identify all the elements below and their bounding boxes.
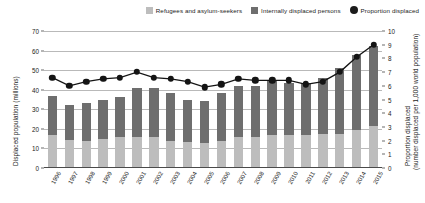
y-axis-right-title-line1: Proportion displaced [404,106,411,166]
y-axis-left-tick-label: 0 [35,165,39,172]
y-axis-left-tick-label: 70 [32,28,39,35]
legend-dot-proportion-icon [350,6,358,14]
x-axis-tick-label: 2012 [317,170,333,191]
y-axis-right-tick-label: 10 [388,28,395,35]
x-axis-tick-label: 2013 [334,170,350,191]
x-axis-tick-label: 2006 [215,170,231,191]
y-axis-right-tick-label: 1 [388,151,392,158]
x-axis-tick-label: 2007 [232,170,248,191]
x-axis-tick-label: 2009 [266,170,282,191]
plot-area: 010203040506070 012345678910 [44,31,382,168]
y-axis-left-tick-label: 10 [32,145,39,152]
y-axis-right-tickmark [382,99,385,100]
y-axis-right-tickmark [382,140,385,141]
x-axis-baseline [44,167,382,168]
y-axis-left-tick-label: 20 [32,125,39,132]
y-axis-right-tickmark [382,168,385,169]
x-axis-tick-label: 2004 [182,170,198,191]
x-axis-tick-label: 2003 [165,170,181,191]
y-axis-right-tick-label: 2 [388,137,392,144]
legend-item-refugees: Refugees and asylum-seekers [146,7,242,14]
x-axis-tick-label: 1996 [46,170,62,191]
legend-label-proportion: Proportion displaced [361,7,419,14]
x-axis-tick-label: 2000 [114,170,130,191]
x-axis-tick-label: 2015 [368,170,384,191]
x-axis-tick-label: 1998 [80,170,96,191]
y-axis-right-tick-label: 6 [388,82,392,89]
x-axis-tick-label: 2002 [148,170,164,191]
y-axis-right-tickmark [382,31,385,32]
y-axis-right-tickmark [382,154,385,155]
x-axis-tick-label: 2001 [131,170,147,191]
y-axis-left-tick-label: 30 [32,106,39,113]
x-axis-tick-label: 2005 [199,170,215,191]
chart-container: Refugees and asylum-seekers Internally d… [0,0,425,203]
y-axis-right-tickmark [382,58,385,59]
y-axis-right-title-line2: (number displaced per 1,000 world popula… [412,34,419,170]
y-axis-right-tickmark [382,113,385,114]
y-axis-right-tickmark [382,85,385,86]
x-axis-tick-label: 2008 [249,170,265,191]
y-axis-right-tick-label: 5 [388,96,392,103]
legend-swatch-refugees-icon [146,7,153,14]
chart-legend: Refugees and asylum-seekers Internally d… [0,6,425,14]
x-axis-tick-label: 2014 [351,170,367,191]
x-axis-tick-label: 2011 [300,170,316,191]
y-axis-right-tickmark [382,126,385,127]
y-axis-right-tick-label: 7 [388,69,392,76]
y-axis-right-tick-label: 3 [388,123,392,130]
x-axis-tick-label: 2010 [283,170,299,191]
legend-item-proportion: Proportion displaced [350,6,419,14]
legend-swatch-idps-icon [251,7,258,14]
legend-label-idps: Internally displaced persons [261,7,341,14]
y-axis-right-tick-label: 4 [388,110,392,117]
y-axis-left-tick-label: 50 [32,67,39,74]
y-axis-right-tickmark [382,44,385,45]
y-axis-left-title: Displaced population (millions) [12,76,19,166]
x-axis-tick-label: 1999 [97,170,113,191]
legend-label-refugees: Refugees and asylum-seekers [156,7,242,14]
y-axis-right-tick-label: 0 [388,165,392,172]
x-axis-labels: 1996199719981999200020012002200320042005… [44,170,382,203]
y-axis-left-tick-label: 60 [32,47,39,54]
x-axis-tick-label: 1997 [63,170,79,191]
y-axis-right-tickmark [382,72,385,73]
y-axis-right-tick-label: 9 [388,41,392,48]
legend-item-idps: Internally displaced persons [251,7,341,14]
proportion-line-series [44,31,382,168]
y-axis-right-tick-label: 8 [388,55,392,62]
y-axis-left-tick-label: 40 [32,86,39,93]
